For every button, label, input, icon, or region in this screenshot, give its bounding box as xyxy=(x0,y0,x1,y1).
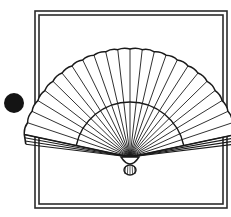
illustration-canvas xyxy=(0,0,231,217)
bullet-point-icon xyxy=(4,93,24,113)
fan-illustration-svg xyxy=(0,0,231,217)
